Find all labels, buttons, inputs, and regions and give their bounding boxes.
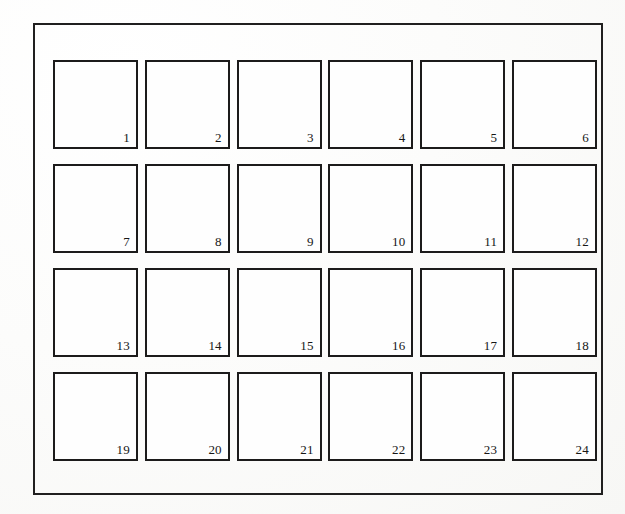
grid-cell[interactable]: 19 [53, 372, 138, 461]
cell-number-label: 3 [307, 131, 314, 145]
grid-cell[interactable]: 24 [512, 372, 597, 461]
cell-number-label: 24 [576, 443, 589, 457]
grid-cell[interactable]: 6 [512, 60, 597, 149]
cell-number-label: 20 [208, 443, 221, 457]
cell-number-label: 22 [392, 443, 405, 457]
cell-number-label: 10 [392, 235, 405, 249]
cell-number-label: 2 [215, 131, 222, 145]
grid-cell[interactable]: 9 [237, 164, 322, 253]
grid-cell[interactable]: 15 [237, 268, 322, 357]
grid-cell[interactable]: 23 [420, 372, 505, 461]
grid-cell[interactable]: 16 [328, 268, 413, 357]
grid-cell[interactable]: 1 [53, 60, 138, 149]
cell-number-label: 4 [399, 131, 406, 145]
cell-number-label: 7 [123, 235, 130, 249]
grid-cell[interactable]: 20 [145, 372, 230, 461]
grid-cell[interactable]: 3 [237, 60, 322, 149]
grid-cell[interactable]: 8 [145, 164, 230, 253]
grid-cell[interactable]: 10 [328, 164, 413, 253]
cell-number-label: 12 [576, 235, 589, 249]
cell-number-label: 8 [215, 235, 222, 249]
numbered-cell-grid: 1 2 3 4 5 6 7 8 9 10 11 12 13 14 15 16 [53, 60, 592, 468]
cell-number-label: 11 [484, 235, 497, 249]
cell-number-label: 13 [117, 339, 130, 353]
grid-cell[interactable]: 18 [512, 268, 597, 357]
cell-number-label: 18 [576, 339, 589, 353]
grid-cell[interactable]: 5 [420, 60, 505, 149]
cell-number-label: 15 [300, 339, 313, 353]
grid-cell[interactable]: 13 [53, 268, 138, 357]
cell-number-label: 9 [307, 235, 314, 249]
grid-cell[interactable]: 11 [420, 164, 505, 253]
cell-number-label: 16 [392, 339, 405, 353]
cell-number-label: 21 [300, 443, 313, 457]
cell-number-label: 6 [582, 131, 589, 145]
cell-number-label: 17 [484, 339, 497, 353]
cell-number-label: 14 [208, 339, 221, 353]
cell-number-label: 19 [117, 443, 130, 457]
cell-number-label: 1 [123, 131, 130, 145]
cell-number-label: 23 [484, 443, 497, 457]
grid-cell[interactable]: 22 [328, 372, 413, 461]
grid-cell[interactable]: 7 [53, 164, 138, 253]
grid-cell[interactable]: 4 [328, 60, 413, 149]
grid-cell[interactable]: 2 [145, 60, 230, 149]
grid-cell[interactable]: 17 [420, 268, 505, 357]
grid-cell[interactable]: 14 [145, 268, 230, 357]
grid-cell[interactable]: 21 [237, 372, 322, 461]
grid-cell[interactable]: 12 [512, 164, 597, 253]
cell-number-label: 5 [490, 131, 497, 145]
